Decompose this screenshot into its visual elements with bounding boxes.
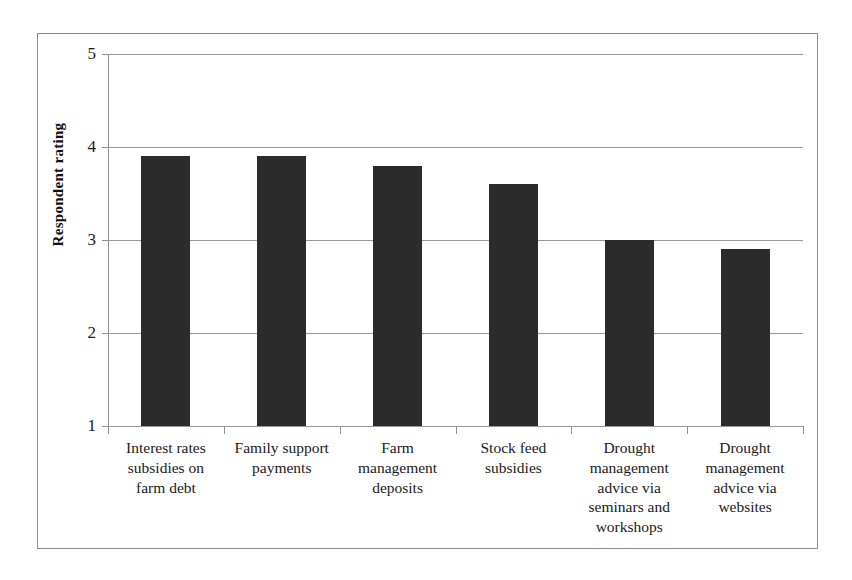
x-category-label-4-line-3: seminars and	[571, 497, 687, 517]
x-category-label-3-line-0: Stock feed	[456, 438, 572, 458]
y-tick-mark-5	[102, 54, 108, 55]
x-category-label-3-line-1: subsidies	[456, 458, 572, 478]
y-tick-mark-3	[102, 240, 108, 241]
plot-area: 12345	[108, 54, 803, 426]
x-category-label-3: Stock feedsubsidies	[456, 438, 572, 478]
bar-3	[489, 184, 538, 426]
x-tick-mark-2	[340, 427, 341, 434]
x-category-label-5-line-0: Drought	[687, 438, 803, 458]
x-category-label-4: Droughtmanagementadvice viaseminars andw…	[571, 438, 687, 537]
bar-5	[721, 249, 770, 426]
gridline-2	[108, 333, 803, 334]
bar-0	[141, 156, 190, 426]
x-category-label-4-line-4: workshops	[571, 517, 687, 537]
bar-chart-figure: Respondent rating 12345 Interest ratessu…	[0, 0, 852, 580]
y-axis-title: Respondent rating	[50, 110, 67, 260]
x-tick-mark-6	[803, 427, 804, 434]
bar-2	[373, 166, 422, 426]
y-tick-label-2: 2	[70, 324, 96, 341]
y-tick-mark-4	[102, 147, 108, 148]
x-category-label-0-line-0: Interest rates	[108, 438, 224, 458]
x-category-label-1: Family supportpayments	[224, 438, 340, 478]
x-category-label-4-line-2: advice via	[571, 478, 687, 498]
bar-4	[605, 240, 654, 426]
x-category-label-5-line-1: management	[687, 458, 803, 478]
y-tick-label-3: 3	[70, 231, 96, 248]
x-category-label-1-line-1: payments	[224, 458, 340, 478]
y-tick-label-4: 4	[70, 138, 96, 155]
x-category-label-2: Farmmanagementdeposits	[340, 438, 456, 497]
x-tick-mark-5	[687, 427, 688, 434]
x-category-label-1-line-0: Family support	[224, 438, 340, 458]
bar-1	[257, 156, 306, 426]
x-tick-mark-4	[571, 427, 572, 434]
y-tick-label-1: 1	[70, 417, 96, 434]
gridline-5	[108, 54, 803, 55]
x-category-label-5: Droughtmanagementadvice viawebsites	[687, 438, 803, 517]
x-category-label-2-line-0: Farm	[340, 438, 456, 458]
x-tick-mark-1	[224, 427, 225, 434]
x-category-label-4-line-1: management	[571, 458, 687, 478]
x-category-label-0: Interest ratessubsidies onfarm debt	[108, 438, 224, 497]
x-category-label-0-line-2: farm debt	[108, 478, 224, 498]
y-tick-mark-2	[102, 333, 108, 334]
gridline-4	[108, 147, 803, 148]
x-category-label-5-line-2: advice via	[687, 478, 803, 498]
x-category-label-4-line-0: Drought	[571, 438, 687, 458]
x-category-label-5-line-3: websites	[687, 497, 803, 517]
gridline-3	[108, 240, 803, 241]
x-tick-mark-3	[456, 427, 457, 434]
x-category-label-2-line-2: deposits	[340, 478, 456, 498]
y-tick-label-5: 5	[70, 45, 96, 62]
x-category-label-0-line-1: subsidies on	[108, 458, 224, 478]
x-category-label-2-line-1: management	[340, 458, 456, 478]
x-tick-mark-0	[108, 427, 109, 434]
